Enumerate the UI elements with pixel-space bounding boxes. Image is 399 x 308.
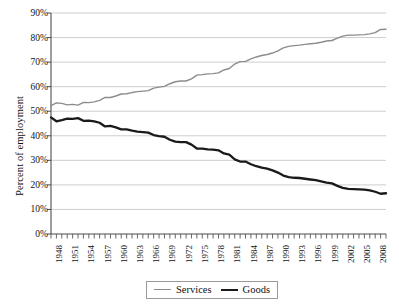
series-line-goods [51, 117, 386, 193]
legend-label-services: Services [176, 284, 212, 295]
x-axis-ticks [51, 234, 386, 239]
y-axis-tick-label: 50% [31, 106, 48, 116]
chart-legend: Services Goods [146, 281, 278, 299]
series-line-services [51, 29, 386, 105]
y-axis-tick-label: 20% [31, 180, 48, 190]
grid-lines [51, 13, 386, 209]
legend-label-goods: Goods [243, 284, 270, 295]
y-axis-tick-labels: 90%80%70%60%50%40%30%20%10%0% [18, 0, 48, 240]
y-axis-label-container: Percent of employment [0, 0, 18, 240]
y-axis-tick-label: 60% [31, 82, 48, 92]
y-axis-tick-label: 30% [31, 155, 48, 165]
y-axis-tick-label: 80% [31, 33, 48, 43]
legend-line-goods-icon [221, 289, 238, 291]
chart-container: Percent of employment 90%80%70%60%50%40%… [0, 0, 399, 308]
legend-line-services-icon [154, 289, 171, 290]
y-axis-tick-label: 90% [31, 8, 48, 18]
chart-plot-area [0, 0, 399, 308]
y-axis-tick-label: 40% [31, 131, 48, 141]
y-axis-tick-label: 10% [31, 204, 48, 214]
legend-item-goods[interactable]: Goods [221, 284, 270, 295]
y-axis-tick-label: 0% [35, 229, 48, 239]
y-axis-tick-label: 70% [31, 57, 48, 67]
legend-item-services[interactable]: Services [154, 284, 212, 295]
